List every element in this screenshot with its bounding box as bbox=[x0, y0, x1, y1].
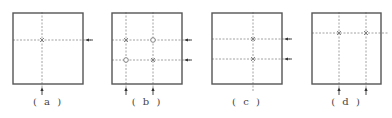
arrow-head bbox=[337, 87, 340, 91]
arrow-head bbox=[40, 87, 43, 91]
arrow-left-icon bbox=[184, 58, 192, 61]
arrow-head bbox=[85, 38, 89, 41]
panel-frame bbox=[112, 13, 182, 84]
panel-label: ( c ) bbox=[222, 96, 272, 107]
arrow-head bbox=[124, 87, 127, 91]
arrow-up-icon bbox=[151, 87, 154, 95]
arrow-up-icon bbox=[40, 87, 43, 95]
panel-label: ( d ) bbox=[322, 96, 372, 107]
panel-frame bbox=[13, 13, 83, 84]
arrow-up-icon bbox=[337, 87, 340, 95]
arrow-left-icon bbox=[184, 38, 192, 41]
panel-a bbox=[13, 12, 93, 95]
panel-b bbox=[112, 12, 192, 95]
circle-marker-icon bbox=[124, 58, 129, 63]
arrow-head bbox=[184, 38, 188, 41]
arrow-left-icon bbox=[284, 37, 292, 40]
circle-marker-icon bbox=[151, 38, 156, 43]
panel-c bbox=[212, 12, 292, 92]
arrow-head bbox=[364, 87, 367, 91]
panel-d bbox=[312, 12, 389, 95]
arrow-head bbox=[284, 57, 288, 60]
arrow-head bbox=[184, 58, 188, 61]
arrow-head bbox=[151, 87, 154, 91]
arrow-left-icon bbox=[85, 38, 93, 41]
arrow-up-icon bbox=[364, 87, 367, 95]
arrow-up-icon bbox=[124, 87, 127, 95]
panel-label: ( b ) bbox=[122, 96, 172, 107]
arrow-head bbox=[284, 37, 288, 40]
panel-label: ( a ) bbox=[23, 96, 73, 107]
panel-frame bbox=[312, 13, 381, 84]
panel-frame bbox=[212, 13, 282, 84]
arrow-left-icon bbox=[284, 57, 292, 60]
